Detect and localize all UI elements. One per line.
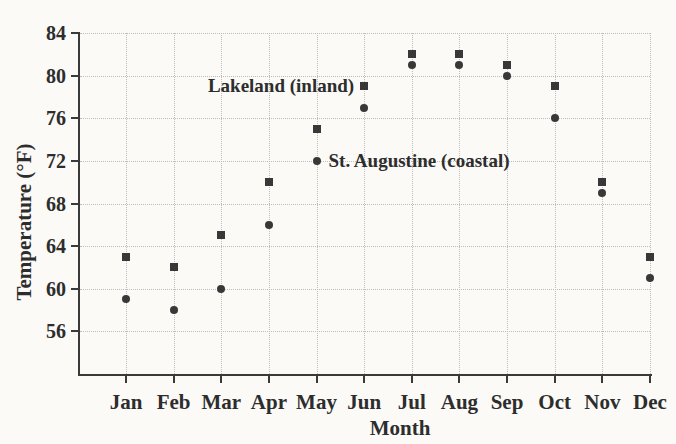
marker-lakeland-inland-apr — [265, 178, 273, 186]
marker-lakeland-inland-dec — [646, 253, 654, 261]
x-axis-tick — [173, 374, 175, 383]
marker-lakeland-inland-jul — [408, 50, 416, 58]
marker-st-augustine-coastal-aug — [455, 61, 463, 69]
x-tick-label-feb: Feb — [157, 391, 191, 413]
x-gridline — [507, 33, 508, 374]
y-axis-tick — [71, 203, 80, 205]
marker-st-augustine-coastal-dec — [646, 274, 654, 282]
x-gridline — [650, 33, 651, 374]
y-tick-label: 80 — [0, 65, 66, 87]
x-gridline — [602, 33, 603, 374]
y-axis-tick — [71, 330, 80, 332]
marker-st-augustine-coastal-may — [313, 157, 321, 165]
y-axis-tick — [71, 75, 80, 77]
series-label-lakeland-inland: Lakeland (inland) — [208, 75, 354, 97]
marker-st-augustine-coastal-sep — [503, 72, 511, 80]
series-label-st-augustine-coastal: St. Augustine (coastal) — [329, 150, 510, 172]
y-tick-label: 68 — [0, 193, 66, 215]
x-axis-tick — [411, 374, 413, 383]
x-tick-label-may: May — [296, 391, 337, 413]
marker-st-augustine-coastal-mar — [217, 285, 225, 293]
x-axis-title: Month — [370, 416, 431, 441]
x-gridline — [126, 33, 127, 374]
marker-lakeland-inland-jan — [122, 253, 130, 261]
marker-lakeland-inland-mar — [217, 231, 225, 239]
marker-lakeland-inland-feb — [170, 263, 178, 271]
marker-lakeland-inland-may — [313, 125, 321, 133]
x-axis-tick — [601, 374, 603, 383]
x-gridline — [174, 33, 175, 374]
y-tick-label: 60 — [0, 278, 66, 300]
y-tick-label: 72 — [0, 150, 66, 172]
y-axis-tick — [71, 117, 80, 119]
x-tick-label-jul: Jul — [398, 391, 426, 413]
y-tick-label: 56 — [0, 320, 66, 342]
x-tick-label-dec: Dec — [633, 391, 667, 413]
x-tick-label-apr: Apr — [251, 391, 287, 413]
marker-st-augustine-coastal-jan — [122, 295, 130, 303]
x-tick-label-nov: Nov — [584, 391, 620, 413]
x-tick-label-oct: Oct — [538, 391, 571, 413]
marker-lakeland-inland-jun — [360, 82, 368, 90]
x-tick-label-mar: Mar — [201, 391, 241, 413]
x-axis-tick — [554, 374, 556, 383]
x-axis-tick — [363, 374, 365, 383]
x-tick-label-aug: Aug — [441, 391, 478, 413]
y-axis-tick — [71, 32, 80, 34]
x-axis-tick — [316, 374, 318, 383]
x-tick-label-jan: Jan — [110, 391, 143, 413]
x-axis-tick — [649, 374, 651, 383]
y-tick-label: 64 — [0, 235, 66, 257]
marker-st-augustine-coastal-nov — [598, 189, 606, 197]
x-tick-label-sep: Sep — [491, 391, 524, 413]
marker-st-augustine-coastal-jul — [408, 61, 416, 69]
x-axis-tick — [268, 374, 270, 383]
x-gridline — [412, 33, 413, 374]
marker-st-augustine-coastal-oct — [551, 114, 559, 122]
y-axis-tick — [71, 245, 80, 247]
x-axis-tick — [458, 374, 460, 383]
x-axis-tick — [125, 374, 127, 383]
x-axis-tick — [220, 374, 222, 383]
marker-lakeland-inland-oct — [551, 82, 559, 90]
y-tick-label: 84 — [0, 22, 66, 44]
marker-lakeland-inland-aug — [455, 50, 463, 58]
temperature-scatter-chart: Temperature (°F) Lakeland (inland)St. Au… — [0, 0, 676, 444]
x-axis-tick — [506, 374, 508, 383]
x-tick-label-jun: Jun — [347, 391, 381, 413]
marker-st-augustine-coastal-feb — [170, 306, 178, 314]
plot-area: Lakeland (inland)St. Augustine (coastal) — [80, 33, 650, 374]
y-axis-tick — [71, 160, 80, 162]
marker-st-augustine-coastal-jun — [360, 104, 368, 112]
y-axis-tick — [71, 288, 80, 290]
marker-lakeland-inland-nov — [598, 178, 606, 186]
marker-st-augustine-coastal-apr — [265, 221, 273, 229]
y-tick-label: 76 — [0, 107, 66, 129]
marker-lakeland-inland-sep — [503, 61, 511, 69]
x-gridline — [459, 33, 460, 374]
